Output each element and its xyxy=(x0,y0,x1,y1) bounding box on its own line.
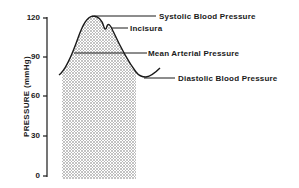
y-tick-0: 0 xyxy=(18,172,40,180)
blood-pressure-diagram: 120 90 60 30 0 PRESSURE (mmHg) Systolic … xyxy=(0,0,299,188)
systolic-label: Systolic Blood Pressure xyxy=(159,12,256,21)
mean-arterial-label: Mean Arterial Pressure xyxy=(148,49,239,58)
y-axis-label: PRESSURE (mmHg) xyxy=(22,47,31,147)
stippled-area xyxy=(59,16,136,179)
incisura-label: Incisura xyxy=(130,24,162,33)
y-tick-120: 120 xyxy=(18,14,40,22)
y-axis xyxy=(43,17,47,177)
diastolic-label: Diastolic Blood Pressure xyxy=(178,74,278,83)
